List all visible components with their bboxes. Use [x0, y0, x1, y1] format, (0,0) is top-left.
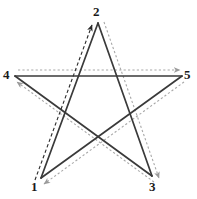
- vertex-label-2: 2: [93, 5, 100, 18]
- vertex-label-4: 4: [3, 68, 10, 81]
- star-edge-2-3: [98, 23, 152, 176]
- guide-arrow-1-to-2: [35, 25, 92, 180]
- star-edge-3-4: [15, 76, 152, 176]
- guide-arrow-3-to-4: [17, 82, 154, 182]
- guide-arrow-layer: [17, 22, 184, 184]
- guide-arrow-2-to-3: [104, 22, 159, 178]
- pentagram-figure: 1 2 3 4 5: [0, 0, 197, 199]
- star-edge-5-1: [41, 76, 182, 178]
- vertex-label-3: 3: [149, 180, 156, 193]
- vertex-label-5: 5: [184, 68, 191, 81]
- vertex-label-1: 1: [31, 180, 38, 193]
- star-diagram-canvas: [0, 0, 197, 199]
- star-edge-layer: [15, 23, 182, 178]
